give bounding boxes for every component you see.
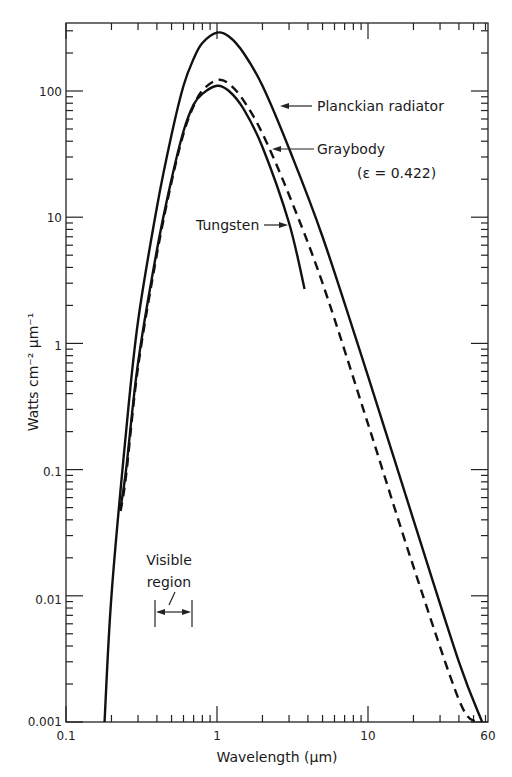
y-tick-label: 0.001	[28, 715, 62, 729]
y-tick-label: 100	[39, 85, 62, 99]
series-planckian-radiator	[105, 32, 483, 722]
chart: 0.1 1 10 60 0.001 0.01 0.1 1 10 100 Wave…	[0, 0, 512, 777]
x-tick-label: 60	[480, 729, 495, 743]
x-tick-label: 1	[213, 729, 221, 743]
svg-text:Graybody: Graybody	[317, 141, 385, 157]
x-axis-title: Wavelength (μm)	[217, 749, 338, 765]
x-tick-label: 0.1	[56, 729, 75, 743]
svg-text:(ε = 0.422): (ε = 0.422)	[357, 165, 436, 181]
svg-text:Visible: Visible	[146, 552, 192, 568]
axis-ticks	[66, 23, 488, 722]
annotation-graybody: Graybody (ε = 0.422)	[272, 141, 436, 181]
y-axis-title: Watts cm⁻² μm⁻¹	[25, 313, 41, 432]
svg-text:Planckian radiator: Planckian radiator	[317, 98, 444, 114]
y-tick-label: 10	[47, 211, 62, 225]
annotation-planckian: Planckian radiator	[280, 98, 444, 114]
y-tick-label: 0.1	[43, 465, 62, 479]
plot-frame	[66, 23, 488, 722]
annotation-tungsten: Tungsten	[195, 217, 288, 233]
svg-text:region: region	[147, 574, 191, 590]
annotation-visible-region: Visible region	[146, 552, 192, 627]
svg-text:Tungsten: Tungsten	[195, 217, 259, 233]
curves	[105, 32, 483, 722]
x-tick-label: 10	[360, 729, 375, 743]
y-tick-label: 1	[54, 339, 62, 353]
y-tick-label: 0.01	[35, 593, 62, 607]
